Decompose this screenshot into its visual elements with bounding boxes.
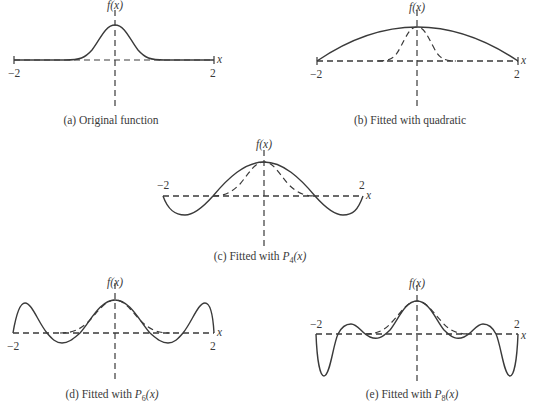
xmin-b: −2	[310, 68, 322, 80]
p6-curve	[13, 300, 214, 343]
caption-d: (d) Fitted with P6(x)	[65, 388, 158, 403]
original-curve	[14, 25, 214, 60]
panel-b	[317, 10, 518, 107]
caption-b: (b) Fitted with quadratic	[354, 114, 466, 126]
xmin-c: −2	[157, 179, 169, 191]
xlabel-a: x	[216, 53, 223, 65]
xlabel-c: x	[365, 189, 372, 201]
xmin-e: −2	[310, 318, 322, 330]
ylabel-a: f(x)	[107, 0, 123, 12]
caption-e-poly: P	[434, 388, 441, 400]
xmin-a: −2	[8, 67, 20, 79]
xmax-b: 2	[514, 68, 520, 80]
caption-c: (c) Fitted with P4(x)	[214, 250, 306, 265]
ylabel-e: f(x)	[409, 277, 425, 290]
caption-c-poly: P	[282, 250, 289, 262]
p4-curve	[163, 162, 363, 215]
ylabel-c: f(x)	[256, 138, 272, 151]
caption-c-prefix: (c) Fitted with	[214, 250, 283, 262]
panel-a	[14, 10, 214, 107]
ylabel-b: f(x)	[409, 1, 425, 14]
panel-c	[163, 150, 363, 246]
xmax-d: 2	[210, 340, 216, 352]
panel-d	[13, 283, 214, 380]
panel-e	[316, 285, 518, 382]
caption-d-prefix: (d) Fitted with	[65, 388, 134, 400]
caption-e: (e) Fitted with P8(x)	[366, 388, 458, 403]
xlabel-d: x	[216, 326, 223, 338]
xmax-e: 2	[514, 318, 520, 330]
xmax-a: 2	[210, 67, 216, 79]
xlabel-b: x	[520, 54, 527, 66]
xmax-c: 2	[359, 179, 365, 191]
xlabel-e: x	[520, 329, 527, 341]
caption-a: (a) Original function	[63, 114, 158, 126]
xmin-d: −2	[7, 340, 19, 352]
axis-labels: f(x) x −2 2 f(x) x −2 2 f(x) x −2 2 f(x)…	[7, 0, 527, 352]
caption-d-suffix: (x)	[146, 388, 159, 400]
caption-c-suffix: (x)	[293, 250, 306, 262]
caption-e-prefix: (e) Fitted with	[366, 388, 435, 400]
ylabel-d: f(x)	[107, 276, 123, 289]
caption-e-suffix: (x)	[445, 388, 458, 400]
figure-canvas: f(x) x −2 2 f(x) x −2 2 f(x) x −2 2 f(x)…	[0, 0, 539, 411]
